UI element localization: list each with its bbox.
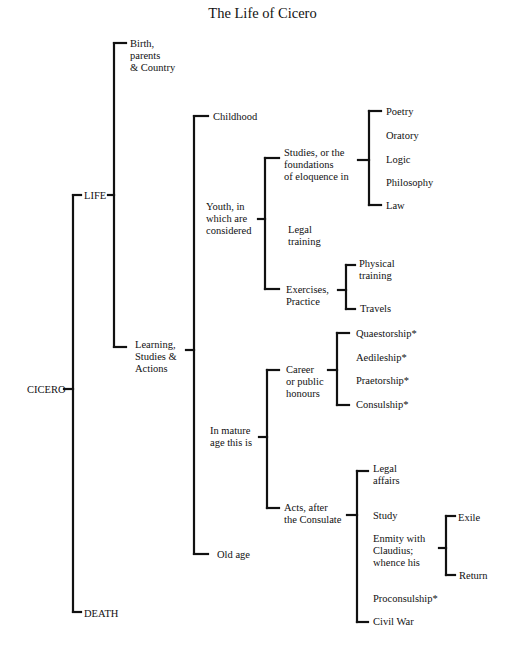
node-return: Return: [459, 570, 488, 582]
node-philosophy: Philosophy: [386, 177, 433, 189]
node-mature: In mature age this is: [210, 425, 252, 449]
node-life: LIFE: [84, 190, 106, 202]
node-exercises: Exercises, Practice: [286, 284, 329, 308]
node-birth: Birth, parents & Country: [130, 38, 175, 74]
node-legal-training: Legal training: [288, 224, 321, 248]
node-poetry: Poetry: [386, 106, 413, 118]
node-praetorship: Praetorship*: [356, 375, 409, 387]
node-consulship: Consulship*: [356, 399, 409, 411]
node-civilwar: Civil War: [373, 616, 414, 628]
node-quaestorship: Quaestorship*: [356, 328, 417, 340]
node-travels: Travels: [360, 303, 391, 315]
node-proconsulship: Proconsulship*: [373, 593, 438, 605]
node-acts: Acts, after the Consulate: [284, 502, 341, 526]
node-learning: Learning, Studies & Actions: [135, 339, 177, 375]
node-death: DEATH: [84, 608, 118, 620]
node-law: Law: [386, 200, 405, 212]
node-career: Career or public honours: [286, 364, 324, 400]
node-physical: Physical training: [359, 258, 395, 282]
node-study: Study: [373, 510, 398, 522]
node-aedileship: Aedileship*: [356, 352, 407, 364]
bracket-lines: [0, 0, 525, 663]
node-exile: Exile: [458, 512, 480, 524]
node-youth: Youth, in which are considered: [206, 201, 251, 237]
node-oratory: Oratory: [386, 130, 419, 142]
node-studies: Studies, or the foundations of eloquence…: [284, 147, 349, 183]
node-oldage: Old age: [217, 549, 250, 561]
node-childhood: Childhood: [213, 111, 257, 123]
node-cicero: CICERO: [27, 384, 66, 396]
node-enmity: Enmity with Claudius; whence his: [373, 533, 425, 569]
node-legal-affairs: Legal affairs: [373, 463, 400, 487]
node-logic: Logic: [386, 154, 411, 166]
